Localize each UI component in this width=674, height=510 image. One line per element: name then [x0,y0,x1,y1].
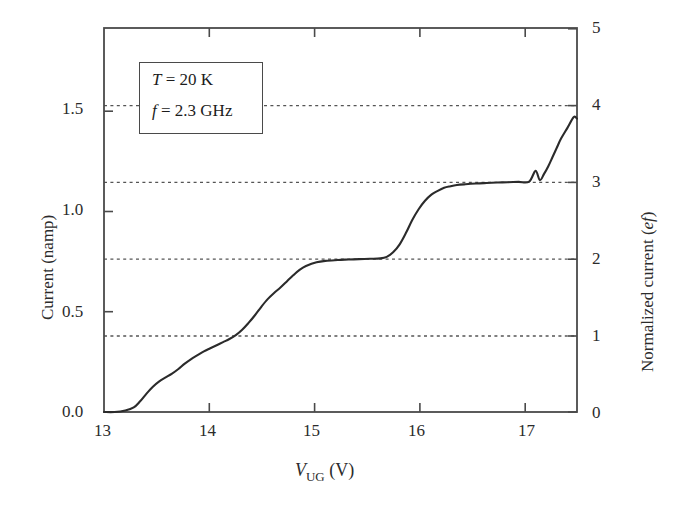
y-ticks-left [104,111,113,412]
legend-box: T = 20 K f = 2.3 GHz [139,62,263,134]
legend-symbol-f: f [152,101,157,120]
gridlines [104,106,577,336]
plot-area [0,0,674,510]
legend-value-T: = 20 K [166,70,213,89]
figure-container: Current (namp) Normalized current (ef) V… [0,0,674,510]
legend-line-frequency: f = 2.3 GHz [152,101,232,121]
data-series-line [104,117,577,412]
legend-symbol-T: T [152,70,161,89]
x-ticks-bottom [209,403,525,412]
legend-value-f: = 2.3 GHz [161,101,232,120]
y-ticks-right [568,29,577,412]
x-ticks-top [209,28,525,37]
legend-line-temperature: T = 20 K [152,70,213,90]
